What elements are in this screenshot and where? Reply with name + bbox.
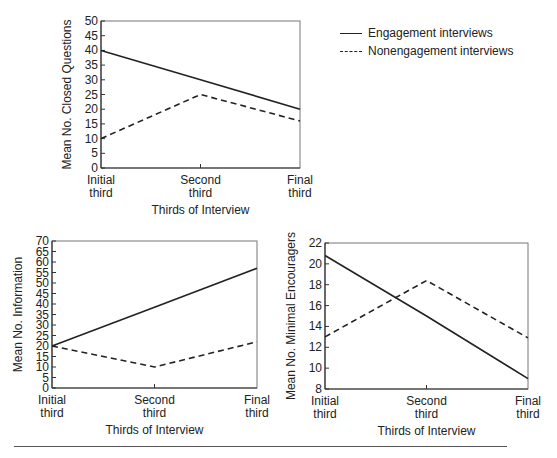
y-tick-label: 30 — [85, 73, 99, 87]
y-tick-label: 35 — [85, 58, 99, 72]
x-tick-label: Second — [180, 173, 221, 187]
y-tick-label: 70 — [36, 234, 50, 248]
y-tick-label: 18 — [309, 278, 323, 292]
y-tick-label: 16 — [309, 299, 323, 313]
x-tick-label: Final — [244, 393, 270, 407]
engagement-series-line — [101, 50, 300, 109]
figure-canvas: 05101520253035404550InitialthirdSecondth… — [0, 0, 557, 458]
x-tick-label: third — [40, 406, 63, 420]
engagement-series-line — [52, 268, 257, 346]
legend-label: Nonengagement interviews — [368, 44, 513, 58]
x-axis-title: Thirds of Interview — [105, 423, 203, 437]
x-tick-label: Second — [134, 393, 175, 407]
line-chart-1: 05101520253035404550InitialthirdSecondth… — [60, 14, 313, 217]
y-tick-label: 10 — [309, 361, 323, 375]
y-axis-title: Mean No. Minimal Encouragers — [284, 232, 298, 400]
x-tick-label: third — [288, 186, 311, 200]
x-tick-label: third — [143, 406, 166, 420]
y-axis-title: Mean No. Closed Questions — [60, 19, 74, 169]
y-tick-label: 25 — [85, 88, 99, 102]
y-tick-label: 50 — [85, 14, 99, 28]
x-tick-label: third — [245, 406, 268, 420]
plot-frame — [101, 21, 300, 168]
y-tick-label: 20 — [309, 257, 323, 271]
plot-frame — [52, 241, 257, 388]
legend-item-engagement: Engagement interviews — [340, 24, 513, 42]
x-axis-title: Thirds of Interview — [377, 424, 475, 438]
line-chart-2: 0510152025303540455055606570Initialthird… — [11, 234, 270, 437]
y-tick-label: 14 — [309, 319, 323, 333]
x-tick-label: third — [313, 407, 336, 421]
footer-divider — [14, 446, 507, 447]
legend: Engagement interviews Nonengagement inte… — [340, 24, 513, 60]
y-tick-label: 45 — [85, 29, 99, 43]
x-tick-label: Initial — [311, 394, 339, 408]
dashed-line-icon — [340, 51, 362, 52]
y-tick-label: 40 — [85, 43, 99, 57]
legend-item-nonengagement: Nonengagement interviews — [340, 42, 513, 60]
x-tick-label: Final — [515, 394, 541, 408]
y-tick-label: 5 — [91, 146, 98, 160]
legend-label: Engagement interviews — [368, 26, 493, 40]
x-tick-label: third — [415, 407, 438, 421]
y-axis-title: Mean No. Information — [11, 257, 25, 372]
x-tick-label: Second — [406, 394, 447, 408]
y-tick-label: 10 — [85, 132, 99, 146]
x-tick-label: Initial — [38, 393, 66, 407]
y-tick-label: 20 — [85, 102, 99, 116]
y-tick-label: 12 — [309, 340, 323, 354]
line-chart-3: 810121416182022InitialthirdSecondthirdFi… — [284, 232, 541, 438]
x-tick-label: third — [189, 186, 212, 200]
x-tick-label: Initial — [87, 173, 115, 187]
nonengagement-series-line — [52, 342, 257, 367]
x-axis-title: Thirds of Interview — [151, 203, 249, 217]
y-tick-label: 22 — [309, 236, 323, 250]
engagement-series-line — [325, 256, 528, 379]
y-tick-label: 15 — [85, 117, 99, 131]
nonengagement-series-line — [325, 281, 528, 338]
x-tick-label: third — [89, 186, 112, 200]
solid-line-icon — [340, 33, 362, 34]
x-tick-label: third — [516, 407, 539, 421]
x-tick-label: Final — [287, 173, 313, 187]
